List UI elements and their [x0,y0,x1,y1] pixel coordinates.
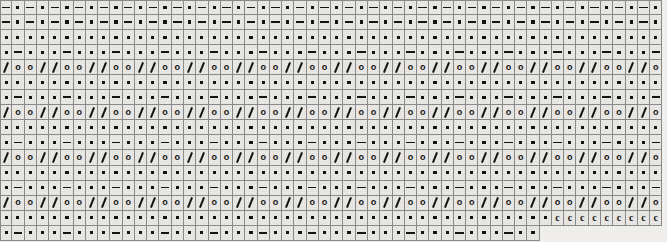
knit-stitch-dot[interactable] [540,75,552,90]
yarn-over-circle[interactable] [356,196,368,211]
decrease-slash[interactable] [49,196,61,211]
knit-stitch-dot[interactable] [393,226,405,241]
knit-stitch-dot[interactable] [37,166,49,181]
knit-stitch-dot[interactable] [74,181,86,196]
knit-stitch-dot[interactable] [25,166,37,181]
knit-stitch-dot[interactable] [527,30,539,45]
knit-stitch-dot[interactable] [282,45,294,60]
decrease-slash[interactable] [478,150,490,165]
decrease-slash[interactable] [98,196,110,211]
purl-stitch-dash[interactable] [343,15,355,30]
knit-stitch-dot[interactable] [393,211,405,226]
knit-stitch-dot[interactable] [270,181,282,196]
knit-stitch-dot[interactable] [442,211,454,226]
knit-stitch-dot[interactable] [221,90,233,105]
yarn-over-circle[interactable] [61,105,73,120]
knit-stitch-dot[interactable] [540,135,552,150]
decrease-slash[interactable] [576,105,588,120]
purl-stitch-dash[interactable] [98,15,110,30]
knit-stitch-dot[interactable] [417,166,429,181]
knit-stitch-dot[interactable] [159,166,171,181]
knit-stitch-dot[interactable] [491,135,503,150]
knit-stitch-dot[interactable] [221,120,233,135]
yarn-over-circle[interactable] [221,105,233,120]
knit-stitch-dot[interactable] [12,30,24,45]
yarn-over-circle[interactable] [270,196,282,211]
knit-stitch-dot[interactable] [37,30,49,45]
yarn-over-circle[interactable] [356,60,368,75]
purl-stitch-dash[interactable] [159,90,171,105]
decrease-slash[interactable] [589,105,601,120]
knit-stitch-dot[interactable] [576,166,588,181]
knit-stitch-dot[interactable] [613,120,625,135]
knit-stitch-dot[interactable] [540,181,552,196]
decrease-slash[interactable] [343,196,355,211]
yarn-over-circle[interactable] [356,150,368,165]
decrease-slash[interactable] [343,150,355,165]
purl-stitch-dash[interactable] [601,135,613,150]
knit-stitch-dot[interactable] [61,211,73,226]
purl-stitch-dash[interactable] [552,181,564,196]
yarn-over-circle[interactable] [454,60,466,75]
knit-stitch-dot[interactable] [626,166,638,181]
decrease-slash[interactable] [380,150,392,165]
knit-stitch-dot[interactable] [172,181,184,196]
knit-stitch-dot[interactable] [393,30,405,45]
knit-stitch-dot[interactable] [282,75,294,90]
knit-stitch-dot[interactable] [503,15,515,30]
knit-stitch-dot[interactable] [258,15,270,30]
knit-stitch-dot[interactable] [74,90,86,105]
yarn-over-circle[interactable] [466,105,478,120]
yarn-over-circle[interactable] [454,196,466,211]
knit-stitch-dot[interactable] [123,120,135,135]
knit-stitch-dot[interactable] [343,75,355,90]
knit-stitch-dot[interactable] [601,166,613,181]
yarn-over-circle[interactable] [270,60,282,75]
knit-stitch-dot[interactable] [552,0,564,15]
knit-stitch-dot[interactable] [135,30,147,45]
knit-stitch-dot[interactable] [123,211,135,226]
decrease-slash[interactable] [0,196,12,211]
purl-stitch-dash[interactable] [319,0,331,15]
knit-stitch-dot[interactable] [37,135,49,150]
knit-stitch-dot[interactable] [196,226,208,241]
knit-stitch-dot[interactable] [613,181,625,196]
yarn-over-circle[interactable] [564,196,576,211]
purl-stitch-dash[interactable] [147,15,159,30]
purl-stitch-dash[interactable] [123,0,135,15]
knit-stitch-dot[interactable] [368,75,380,90]
knit-stitch-dot[interactable] [245,181,257,196]
knit-stitch-dot[interactable] [98,226,110,241]
knit-stitch-dot[interactable] [123,75,135,90]
purl-stitch-dash[interactable] [307,90,319,105]
knit-stitch-dot[interactable] [380,90,392,105]
knit-stitch-dot[interactable] [331,15,343,30]
yarn-over-circle[interactable] [270,150,282,165]
cable-stitch-c[interactable] [552,211,564,226]
knit-stitch-dot[interactable] [49,30,61,45]
yarn-over-circle[interactable] [650,60,662,75]
knit-stitch-dot[interactable] [638,135,650,150]
knit-stitch-dot[interactable] [37,45,49,60]
purl-stitch-dash[interactable] [147,0,159,15]
knit-stitch-dot[interactable] [49,181,61,196]
knit-stitch-dot[interactable] [172,135,184,150]
purl-stitch-dash[interactable] [319,15,331,30]
knit-stitch-dot[interactable] [147,90,159,105]
decrease-slash[interactable] [393,60,405,75]
purl-stitch-dash[interactable] [245,15,257,30]
purl-stitch-dash[interactable] [356,90,368,105]
knit-stitch-dot[interactable] [86,135,98,150]
knit-stitch-dot[interactable] [123,166,135,181]
knit-stitch-dot[interactable] [147,166,159,181]
knit-stitch-dot[interactable] [172,226,184,241]
knit-stitch-dot[interactable] [527,45,539,60]
decrease-slash[interactable] [37,105,49,120]
knit-stitch-dot[interactable] [123,30,135,45]
knit-stitch-dot[interactable] [491,90,503,105]
knit-stitch-dot[interactable] [380,45,392,60]
knit-stitch-dot[interactable] [258,120,270,135]
knit-stitch-dot[interactable] [466,226,478,241]
purl-stitch-dash[interactable] [503,226,515,241]
purl-stitch-dash[interactable] [307,181,319,196]
